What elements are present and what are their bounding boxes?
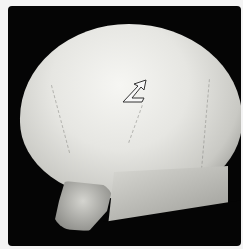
arrow-icon [120, 78, 156, 104]
image-panel [8, 6, 241, 246]
suture-line [128, 105, 143, 143]
suture-line [201, 79, 210, 169]
suture-line [51, 85, 70, 153]
